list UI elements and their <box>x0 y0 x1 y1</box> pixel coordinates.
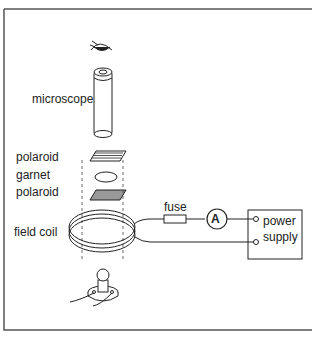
polaroid-top-icon <box>90 151 126 161</box>
microscope-icon <box>94 68 112 138</box>
terminal-negative <box>254 240 259 245</box>
terminal-positive <box>254 217 259 222</box>
garnet-icon <box>95 172 117 182</box>
lamp-icon <box>70 269 118 306</box>
fuse-icon <box>164 215 186 223</box>
garnet-label: garnet <box>16 168 50 182</box>
polaroid-bottom-icon <box>90 190 126 200</box>
power-supply-label-1: power <box>263 214 296 228</box>
frame <box>4 9 312 330</box>
faraday-rotation-apparatus-diagram: microscope polaroid garnet polaroid fiel… <box>0 0 314 337</box>
eye-icon <box>90 41 112 51</box>
microscope-label: microscope <box>32 92 93 106</box>
power-supply-label-2: supply <box>263 230 298 244</box>
fuse-label: fuse <box>164 200 187 214</box>
ammeter-label: A <box>211 212 220 226</box>
polaroid-bottom-label: polaroid <box>16 185 59 199</box>
polaroid-top-label: polaroid <box>16 150 59 164</box>
field-coil-label: field coil <box>14 225 57 239</box>
